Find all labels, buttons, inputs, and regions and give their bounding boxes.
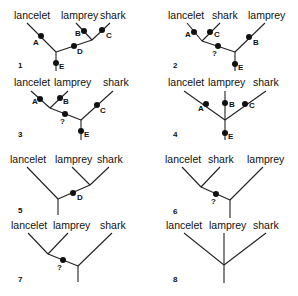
taxon-label: shark — [212, 9, 238, 21]
taxon-label: shark — [100, 9, 126, 21]
tree-6: lancelet shark lamprey ? 6 — [165, 153, 285, 218]
character-label: C — [106, 31, 112, 40]
character-dot — [222, 100, 228, 106]
tree-number: 1 — [18, 61, 23, 70]
character-dot — [242, 101, 248, 107]
character-dot — [99, 27, 105, 33]
taxon-label: lamprey — [55, 153, 93, 165]
taxon-label: lamprey — [54, 76, 92, 88]
character-label: C — [100, 106, 106, 115]
tree-number: 6 — [173, 207, 178, 216]
tree-number: 5 — [18, 206, 23, 215]
taxon-label: lamprey — [53, 219, 91, 231]
character-label: E — [238, 63, 244, 72]
taxon-label: shark — [100, 219, 126, 231]
character-dot — [203, 101, 209, 107]
taxon-label: lancelet — [14, 76, 50, 88]
taxon-label: shark — [253, 219, 279, 231]
tree-8: lancelet lamprey shark 8 — [166, 219, 279, 284]
character-label: B — [253, 38, 259, 47]
taxon-label: lancelet — [166, 219, 202, 231]
taxon-label: shark — [103, 76, 129, 88]
taxon-label: lamprey — [209, 219, 247, 231]
taxon-label: shark — [97, 153, 123, 165]
character-label: A — [33, 38, 39, 47]
taxon-label: lamprey — [61, 9, 99, 21]
character-label: A — [198, 104, 204, 113]
character-label: A — [32, 97, 38, 106]
character-label: B — [229, 100, 235, 109]
character-dot — [81, 28, 87, 34]
tree-4: lancelet lamprey shark A B C E 4 — [168, 76, 279, 141]
cladogram-figure: lancelet lamprey shark A B C D E 1 lance… — [0, 0, 298, 296]
character-label: E — [59, 62, 65, 71]
tree-number: 3 — [18, 130, 23, 139]
taxon-label: lancelet — [14, 9, 50, 21]
taxon-label: lancelet — [165, 153, 201, 165]
character-label: D — [77, 47, 83, 56]
character-dot — [207, 29, 213, 35]
tree-number: 8 — [173, 275, 178, 284]
taxon-label: lamprey — [208, 76, 246, 88]
taxon-label: lamprey — [248, 9, 286, 21]
character-label: B — [75, 29, 81, 38]
taxon-label: lancelet — [10, 153, 46, 165]
character-dot — [38, 33, 44, 39]
tree-5: lancelet lamprey shark D 5 — [10, 153, 123, 215]
character-label: ? — [212, 49, 217, 58]
character-label: A — [185, 30, 191, 39]
character-dot — [37, 96, 43, 102]
taxon-label: shark — [253, 76, 279, 88]
taxon-label: lancelet — [11, 219, 47, 231]
character-dot — [70, 190, 76, 196]
taxon-label: lancelet — [168, 76, 204, 88]
taxon-label: shark — [208, 153, 234, 165]
tree-7: lancelet lamprey shark ? 7 — [11, 219, 126, 284]
character-label: D — [77, 193, 83, 202]
character-label: E — [84, 130, 90, 139]
tree-2: lancelet shark lamprey A C B ? E 2 — [168, 9, 286, 72]
taxon-label: lamprey — [247, 153, 285, 165]
character-label: ? — [57, 263, 62, 272]
tree-number: 7 — [18, 275, 23, 284]
character-label: C — [249, 101, 255, 110]
character-label: ? — [211, 197, 216, 206]
tree-3: lancelet lamprey shark A B C ? E 3 — [14, 76, 129, 140]
character-label: ? — [60, 117, 65, 126]
tree-number: 2 — [173, 61, 178, 70]
character-dot — [191, 29, 197, 35]
character-label: E — [228, 132, 234, 141]
character-label: B — [63, 97, 69, 106]
tree-1: lancelet lamprey shark A B C D E 1 — [14, 9, 126, 71]
character-label: C — [214, 30, 220, 39]
tree-number: 4 — [173, 130, 178, 139]
taxon-label: lancelet — [168, 9, 204, 21]
character-dot — [246, 34, 252, 40]
